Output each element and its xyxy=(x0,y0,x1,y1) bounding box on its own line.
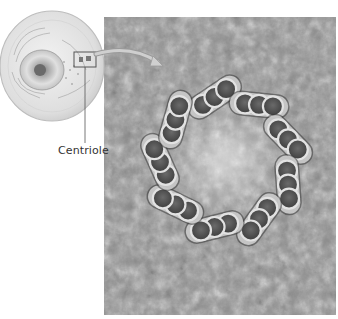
microtubule xyxy=(263,96,283,116)
magnified-panel xyxy=(104,17,336,315)
cell-illustration xyxy=(0,11,104,143)
centriole-label: Centriole xyxy=(58,144,109,157)
diagram-canvas xyxy=(0,0,338,319)
centriole-diagram: Centriole xyxy=(0,0,338,319)
microtubule xyxy=(169,96,189,116)
microtubule xyxy=(153,188,173,208)
microtubule-triplet xyxy=(235,93,283,116)
